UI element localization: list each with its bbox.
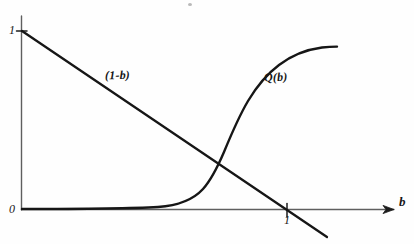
x-axis-tick-label-1: 1	[284, 214, 290, 226]
figure-canvas: 1 0 1 b (1-b) Q(b)	[0, 0, 414, 244]
origin-label-0: 0	[9, 203, 15, 215]
annotation-curve-q-of-b: Q(b)	[264, 70, 288, 83]
x-axis-label: b	[399, 195, 406, 208]
series-curve-q-of-b	[22, 47, 337, 209]
y-axis-tick-label-1: 1	[9, 24, 15, 36]
annotation-line-1-minus-b: (1-b)	[105, 69, 130, 81]
plot-svg	[0, 0, 414, 244]
